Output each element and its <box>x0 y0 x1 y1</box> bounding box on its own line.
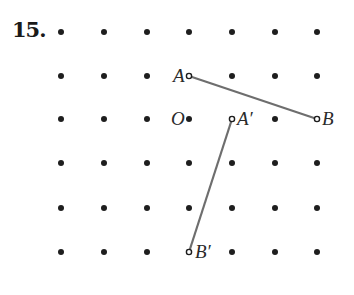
point-marker-a <box>186 73 191 78</box>
grid-dot <box>229 73 235 79</box>
grid-dot <box>58 73 64 79</box>
segment-a-prime-b-prime <box>189 119 232 252</box>
grid-dot <box>272 160 278 166</box>
grid-dot <box>314 249 320 255</box>
segments <box>189 76 317 252</box>
grid-dot <box>58 116 64 122</box>
grid-dot <box>186 205 192 211</box>
grid-dot <box>186 116 192 122</box>
grid-dot <box>144 205 150 211</box>
grid-dot <box>272 116 278 122</box>
point-label-b-prime: B′ <box>195 241 212 262</box>
dot-grid-figure: 15. ABOA′B′ <box>0 0 354 295</box>
grid-dot <box>101 29 107 35</box>
grid-dot <box>101 160 107 166</box>
grid-dot <box>272 249 278 255</box>
grid-dot <box>314 160 320 166</box>
grid-dot <box>272 29 278 35</box>
problem-number: 15. <box>12 17 46 42</box>
grid-dot <box>101 249 107 255</box>
point-marker-b <box>314 116 319 121</box>
grid-dots <box>58 29 320 255</box>
grid-dot <box>229 160 235 166</box>
grid-dot <box>229 205 235 211</box>
grid-dot <box>144 29 150 35</box>
grid-dot <box>58 205 64 211</box>
grid-dot <box>101 73 107 79</box>
point-label-a: A <box>171 65 185 86</box>
grid-dot <box>144 73 150 79</box>
grid-dot <box>58 160 64 166</box>
grid-dot <box>314 29 320 35</box>
grid-dot <box>58 249 64 255</box>
grid-dot <box>101 116 107 122</box>
grid-dot <box>272 73 278 79</box>
grid-dot <box>144 160 150 166</box>
point-label-o: O <box>171 108 185 129</box>
point-marker-b-prime <box>186 249 191 254</box>
grid-dot <box>144 116 150 122</box>
grid-dot <box>314 205 320 211</box>
grid-dot <box>144 249 150 255</box>
point-label-b: B <box>322 108 334 129</box>
grid-dot <box>229 29 235 35</box>
grid-dot <box>186 29 192 35</box>
point-marker-a-prime <box>229 116 234 121</box>
grid-dot <box>101 205 107 211</box>
grid-dot <box>229 249 235 255</box>
grid-dot <box>186 160 192 166</box>
point-label-a-prime: A′ <box>235 108 254 129</box>
segment-ab <box>189 76 317 119</box>
grid-dot <box>314 73 320 79</box>
grid-dot <box>58 29 64 35</box>
grid-dot <box>272 205 278 211</box>
dot-grid-canvas: ABOA′B′ <box>0 0 354 295</box>
